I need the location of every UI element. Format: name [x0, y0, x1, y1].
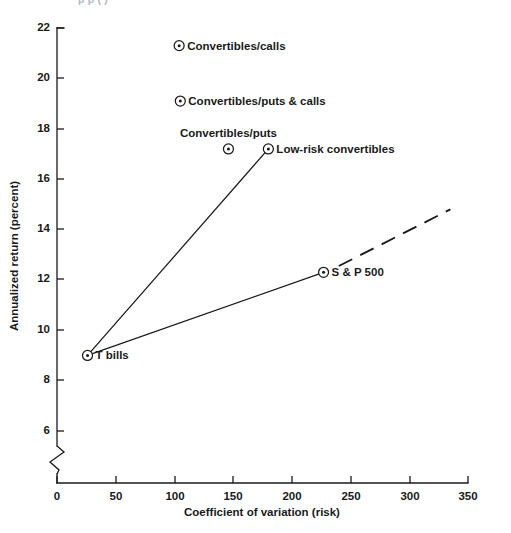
data-point[interactable]: Low-risk convertibles: [263, 143, 394, 155]
series-line-1: [88, 272, 324, 355]
y-axis-tick-labels: 22 20 18 16 14 12 10 8 6: [37, 21, 50, 436]
data-point[interactable]: S & P 500: [319, 266, 384, 278]
y-ticklabel-20: 20: [37, 71, 50, 83]
y-ticklabel-6: 6: [44, 424, 50, 436]
data-point-center-dot-icon: [86, 354, 89, 357]
x-axis: [57, 476, 468, 483]
y-ticklabel-10: 10: [37, 323, 50, 335]
x-axis-title: Coefficient of variation (risk): [184, 506, 340, 518]
data-points-layer: Convertibles/callsConvertibles/puts & ca…: [83, 40, 395, 362]
x-axis-tick-labels: 0 50 100 150 200 250 300 350: [54, 490, 478, 502]
data-point-center-dot-icon: [227, 147, 230, 150]
scatter-plot: 22 20 18 16 14 12 10 8 6 Annualized retu…: [0, 0, 511, 533]
series-layer: [88, 149, 451, 356]
x-ticklabel-50: 50: [110, 490, 123, 502]
y-axis: [50, 28, 64, 483]
series-line-0: [88, 149, 269, 356]
y-ticklabel-12: 12: [37, 272, 50, 284]
y-ticklabel-8: 8: [44, 373, 51, 385]
y-ticklabel-16: 16: [37, 172, 50, 184]
x-ticklabel-0: 0: [54, 490, 60, 502]
data-point[interactable]: Convertibles/puts & calls: [175, 95, 325, 107]
data-point-center-dot-icon: [179, 100, 182, 103]
data-point-center-dot-icon: [178, 44, 181, 47]
data-point-label: Convertibles/puts & calls: [188, 95, 325, 107]
data-point-label: Convertibles/puts: [180, 127, 277, 139]
y-ticklabel-22: 22: [37, 21, 50, 33]
data-point-label: Convertibles/calls: [187, 40, 285, 52]
data-point-label: S & P 500: [332, 266, 384, 278]
y-axis-break-icon: [50, 446, 64, 474]
x-ticklabel-250: 250: [341, 490, 360, 502]
y-ticklabel-18: 18: [37, 122, 50, 134]
y-ticklabel-14: 14: [37, 222, 50, 234]
y-axis-title: Annualized return (percent): [8, 181, 20, 331]
chart-figure: p p ( ) 22 20: [0, 0, 511, 533]
data-point[interactable]: Convertibles/puts: [180, 127, 277, 154]
data-point[interactable]: Convertibles/calls: [174, 40, 285, 52]
data-point[interactable]: T bills: [83, 349, 129, 361]
x-ticklabel-150: 150: [223, 490, 242, 502]
data-point-center-dot-icon: [322, 271, 325, 274]
x-ticklabel-350: 350: [458, 490, 477, 502]
data-point-center-dot-icon: [267, 147, 270, 150]
data-point-label: T bills: [96, 349, 129, 361]
y-axis-ticks: [57, 28, 64, 431]
x-ticklabel-100: 100: [165, 490, 184, 502]
x-ticklabel-200: 200: [282, 490, 301, 502]
series-line-2: [339, 209, 451, 266]
data-point-label: Low-risk convertibles: [276, 143, 394, 155]
x-ticklabel-300: 300: [400, 490, 419, 502]
